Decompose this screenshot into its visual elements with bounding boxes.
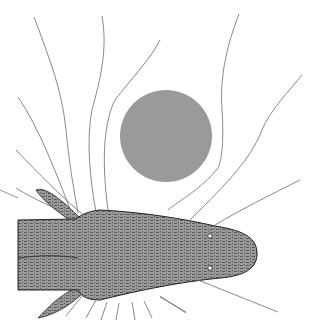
fish [18, 189, 257, 318]
object-circle [120, 90, 212, 182]
fish-field-illustration [0, 0, 319, 330]
ventral-fin [38, 288, 82, 318]
fish-body [18, 210, 257, 300]
eye-upper [208, 234, 212, 238]
eye-lower [208, 266, 212, 270]
dorsal-fin [36, 189, 80, 222]
